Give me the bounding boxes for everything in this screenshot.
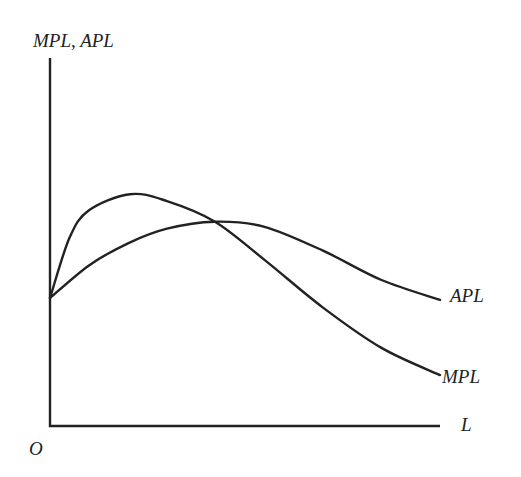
mpl-curve-label: MPL <box>441 366 480 387</box>
chart: MPL, APL L O APL MPL <box>0 0 521 477</box>
origin-label: O <box>29 438 43 459</box>
apl-curve-label: APL <box>448 285 484 306</box>
mpl-curve <box>50 194 440 375</box>
apl-curve <box>50 222 440 300</box>
x-axis-label: L <box>460 414 472 435</box>
axes <box>50 58 440 426</box>
y-axis-label: MPL, APL <box>32 30 114 51</box>
